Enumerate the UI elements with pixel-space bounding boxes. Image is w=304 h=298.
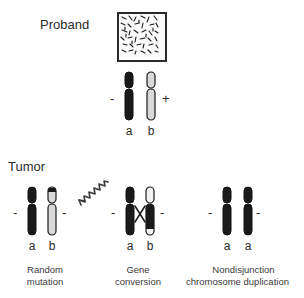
chromosome-panel3-a1: [220, 186, 234, 236]
caption-panel2-line2: conversion: [93, 276, 183, 287]
histology-tissue-panel: [117, 12, 167, 62]
proband-label: Proband: [40, 18, 89, 31]
tissue-speckle-icon: [119, 14, 161, 56]
caption-panel1-line2: mutation: [0, 276, 90, 287]
allele-label-panel2-b: b: [143, 240, 157, 252]
proband-plus-sign: +: [162, 92, 170, 105]
x-crossover-icon: [134, 205, 146, 227]
tumor-label: Tumor: [8, 160, 45, 173]
allele-label-proband-a: a: [122, 125, 136, 137]
allele-label-panel2-a: a: [123, 240, 137, 252]
panel1-left-minus-sign: -: [13, 206, 17, 219]
caption-panel3-line2: chromosome duplication: [171, 276, 304, 287]
panel3-left-minus-sign: -: [208, 206, 212, 219]
panel1-right-minus-sign: -: [62, 206, 66, 219]
chromosome-proband-a: [122, 71, 136, 121]
allele-label-proband-b: b: [144, 125, 158, 137]
chromosome-panel1-b: [45, 186, 59, 236]
figure-canvas: Proband - +: [0, 0, 304, 298]
allele-label-panel3-a2: a: [241, 240, 255, 252]
panel3-right-minus-sign: -: [256, 206, 260, 219]
caption-panel1-line1: Random: [0, 264, 90, 275]
allele-label-panel3-a1: a: [220, 240, 234, 252]
allele-label-panel1-a: a: [25, 240, 39, 252]
chromosome-proband-b: [144, 71, 158, 121]
caption-panel2-line1: Gene: [93, 264, 183, 275]
caption-panel3-line1: Nondisjunction: [183, 264, 304, 275]
chromosome-panel3-a2: [241, 186, 255, 236]
zigzag-arrow-icon: [72, 180, 110, 216]
panel2-left-minus-sign: -: [111, 206, 115, 219]
proband-minus-sign: -: [110, 92, 114, 105]
panel2-right-minus-sign: -: [160, 206, 164, 219]
allele-label-panel1-b: b: [45, 240, 59, 252]
chromosome-panel1-a: [25, 186, 39, 236]
